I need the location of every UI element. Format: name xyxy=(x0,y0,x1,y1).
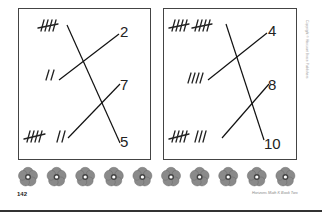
number-10: 10 xyxy=(264,135,281,152)
number-2: 2 xyxy=(120,23,128,40)
bottom-rule xyxy=(0,210,322,212)
flower-icon xyxy=(17,167,39,187)
flower-icon xyxy=(74,167,96,187)
number-7: 7 xyxy=(120,76,128,93)
tally-four xyxy=(188,73,203,83)
flower-icon xyxy=(103,167,125,187)
flower-border xyxy=(17,167,296,187)
left-matching-box: 2 7 5 xyxy=(19,9,151,160)
number-5: 5 xyxy=(120,133,128,150)
flower-icon xyxy=(160,167,182,187)
tally-two xyxy=(46,70,54,80)
footer-credit: Horizons Math K Book Two xyxy=(252,191,298,195)
tally-ten xyxy=(169,20,212,31)
right-matching-box: 4 8 10 xyxy=(164,9,297,160)
flower-icon xyxy=(132,167,154,187)
number-4: 4 xyxy=(268,22,276,39)
match-lines xyxy=(208,24,269,140)
exercise-artwork: 2 7 5 xyxy=(0,0,322,216)
flower-icon xyxy=(246,167,268,187)
match-lines xyxy=(59,25,120,143)
flower-icon xyxy=(217,167,239,187)
tally-eight xyxy=(169,131,206,142)
page-number: 142 xyxy=(17,191,27,197)
flower-icon xyxy=(46,167,68,187)
copyright-notice: Copyright © Harcourt Brace Publishers xyxy=(302,20,310,90)
flower-icon xyxy=(275,167,297,187)
workbook-page: 2 7 5 xyxy=(0,0,322,216)
tally-five xyxy=(38,20,58,31)
flower-icon xyxy=(189,167,211,187)
tally-seven xyxy=(24,131,65,142)
